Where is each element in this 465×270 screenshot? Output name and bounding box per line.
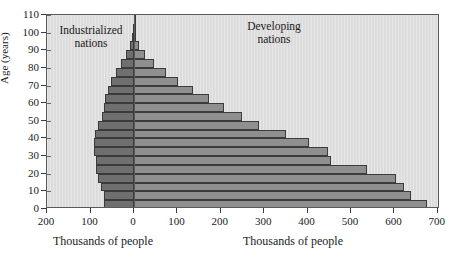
bar-row [47,200,438,208]
y-tick-label: 100 [23,27,40,38]
y-tick-label: 70 [28,80,39,91]
bar-row [47,156,438,165]
x-tick [350,208,351,213]
population-pyramid-figure: Age (years) 0102030405060708090100110 In… [0,0,465,270]
y-tick-inner [47,103,51,104]
x-tick-label: 200 [200,216,240,227]
bar-developing [134,147,328,156]
y-tick-inner [47,191,51,192]
annotation-developing-nations: Developing nations [219,20,329,46]
bar-row [47,174,438,183]
x-tick [46,208,47,213]
bar-row [47,191,438,200]
y-tick-label: 80 [28,62,39,73]
x-tick-label: 100 [156,216,196,227]
y-tick-inner [47,174,51,175]
bar-industrialized [96,165,134,174]
bar-industrialized [98,121,134,130]
y-tick-inner [47,156,51,157]
bar-row [47,121,438,130]
bar-industrialized [104,200,134,208]
annotation-industrialized-line2: nations [46,37,141,50]
y-tick-label: 10 [28,185,39,196]
bar-industrialized [96,156,134,165]
y-tick-inner [47,86,51,87]
bar-developing [134,121,259,130]
bar-row [47,68,438,77]
bar-industrialized [105,94,134,103]
bar-industrialized [102,112,134,121]
x-tick [393,208,394,213]
y-tick-inner [47,68,51,69]
bar-industrialized [104,103,134,112]
bar-industrialized [108,86,134,95]
bar-industrialized [94,147,134,156]
bar-developing [134,174,396,183]
plot-area: Industrialized nations Developing nation… [46,14,439,208]
bar-developing [134,130,286,139]
bar-developing [134,103,224,112]
x-tick [176,208,177,213]
bar-developing [134,94,209,103]
bar-developing [134,77,178,86]
y-tick-label: 60 [28,97,39,108]
bar-row [47,147,438,156]
bar-industrialized [104,191,134,200]
annotation-developing-line1: Developing [219,20,329,33]
bar-row [47,138,438,147]
x-tick-label: 500 [330,216,370,227]
x-axis-title-right: Thousands of people [203,234,383,249]
bar-row [47,165,438,174]
bar-industrialized [98,174,134,183]
bar-row [47,59,438,68]
bar-developing [134,112,242,121]
bar-developing [134,183,404,192]
bar-industrialized [101,183,134,192]
y-tick-label: 40 [28,132,39,143]
bar-industrialized [95,130,134,139]
x-tick-label: 600 [373,216,413,227]
bar-industrialized [111,77,134,86]
bar-industrialized [126,50,134,59]
bar-developing [134,191,411,200]
y-axis-title: Age (years) [0,32,10,84]
bar-row [47,183,438,192]
x-tick-label: 0 [113,216,153,227]
x-tick-label: 100 [70,216,110,227]
x-tick [133,208,134,213]
bar-row [47,130,438,139]
bar-row [47,94,438,103]
y-tick-inner [47,50,51,51]
bar-row [47,103,438,112]
bar-industrialized [116,68,134,77]
x-axis-title-left: Thousands of people [33,234,173,249]
y-tick-label: 20 [28,168,39,179]
y-tick-label: 90 [28,44,39,55]
x-tick-label: 300 [243,216,283,227]
x-tick [307,208,308,213]
bar-developing [134,165,367,174]
bar-developing [134,86,193,95]
y-tick-inner [47,121,51,122]
x-tick-label: 400 [287,216,327,227]
bar-developing [134,68,166,77]
bar-row [47,77,438,86]
bar-developing [134,59,154,68]
y-tick-inner [47,138,51,139]
x-tick [90,208,91,213]
annotation-industrialized-nations: Industrialized nations [46,24,141,50]
y-tick-label: 110 [23,9,39,20]
x-tick-label: 700 [417,216,457,227]
bar-row [47,86,438,95]
y-tick-label: 30 [28,150,39,161]
bar-developing [134,138,309,147]
x-tick [263,208,264,213]
x-tick [220,208,221,213]
bar-industrialized [94,138,134,147]
bar-row [47,50,438,59]
x-tick [437,208,438,213]
annotation-industrialized-line1: Industrialized [46,24,141,37]
bar-developing [134,50,145,59]
y-tick-inner [47,15,51,16]
bar-developing [134,156,331,165]
